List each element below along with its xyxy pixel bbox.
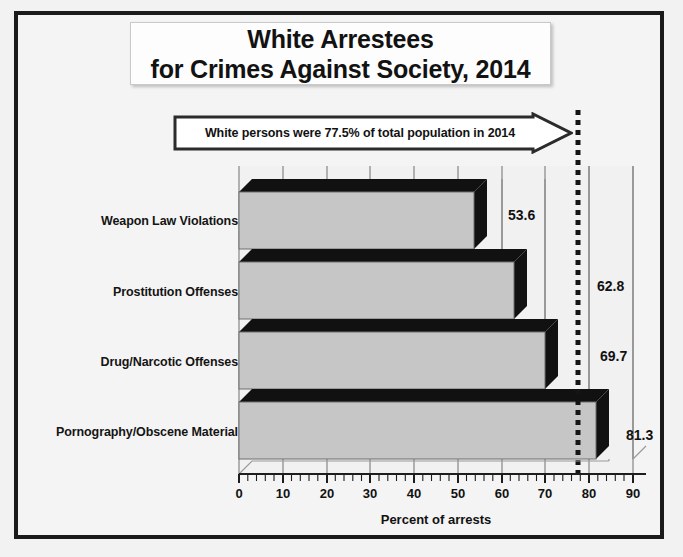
value-label-pornography-obscene-material: 81.3 xyxy=(626,427,653,443)
chart-title-box: White Arrestees for Crimes Against Socie… xyxy=(130,22,551,85)
category-label-prostitution-offenses: Prostitution Offenses xyxy=(8,285,238,299)
reference-callout: White persons were 77.5% of total popula… xyxy=(173,112,573,154)
x-tick-label-20: 20 xyxy=(312,486,342,501)
x-tick-label-70: 70 xyxy=(530,486,560,501)
x-tick-label-80: 80 xyxy=(574,486,604,501)
x-tick-label-30: 30 xyxy=(355,486,385,501)
value-label-weapon-law-violations: 53.6 xyxy=(508,207,535,223)
x-axis-title: Percent of arrests xyxy=(239,512,633,527)
x-tick-label-0: 0 xyxy=(224,486,254,501)
page-title-line-2: for Crimes Against Society, 2014 xyxy=(151,54,531,84)
x-tick-label-40: 40 xyxy=(399,486,429,501)
x-tick-label-60: 60 xyxy=(487,486,517,501)
x-tick-label-10: 10 xyxy=(268,486,298,501)
x-tick-label-90: 90 xyxy=(618,486,648,501)
page-title-line-1: White Arrestees xyxy=(247,24,433,54)
category-label-pornography-obscene-material: Pornography/Obscene Material xyxy=(8,425,238,439)
x-tick-label-50: 50 xyxy=(443,486,473,501)
reference-callout-text: White persons were 77.5% of total popula… xyxy=(189,112,531,154)
category-label-drug-narcotic-offenses: Drug/Narcotic Offenses xyxy=(8,355,238,369)
value-label-prostitution-offenses: 62.8 xyxy=(597,278,624,294)
chart-frame xyxy=(14,11,664,539)
category-label-weapon-law-violations: Weapon Law Violations xyxy=(8,214,238,228)
chart-page: White Arrestees for Crimes Against Socie… xyxy=(0,0,683,557)
value-label-drug-narcotic-offenses: 69.7 xyxy=(600,348,627,364)
